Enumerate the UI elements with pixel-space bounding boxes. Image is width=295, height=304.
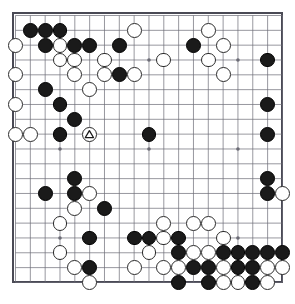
black-stone[interactable] bbox=[186, 38, 201, 53]
black-stone[interactable] bbox=[231, 260, 246, 275]
black-stone[interactable] bbox=[112, 38, 127, 53]
white-stone[interactable] bbox=[8, 127, 23, 142]
white-stone[interactable] bbox=[260, 275, 275, 290]
white-stone[interactable] bbox=[275, 186, 290, 201]
white-stone[interactable] bbox=[127, 260, 142, 275]
black-stone[interactable] bbox=[245, 275, 260, 290]
white-stone[interactable] bbox=[67, 260, 82, 275]
white-stone[interactable] bbox=[82, 275, 97, 290]
black-stone[interactable] bbox=[67, 38, 82, 53]
white-stone[interactable] bbox=[82, 82, 97, 97]
white-stone[interactable] bbox=[216, 38, 231, 53]
black-stone[interactable] bbox=[97, 201, 112, 216]
black-stone[interactable] bbox=[82, 260, 97, 275]
white-stone[interactable] bbox=[23, 127, 38, 142]
white-stone[interactable] bbox=[82, 186, 97, 201]
black-stone[interactable] bbox=[53, 97, 68, 112]
black-stone[interactable] bbox=[82, 38, 97, 53]
black-stone[interactable] bbox=[53, 127, 68, 142]
triangle-marker-icon bbox=[82, 127, 97, 142]
black-stone[interactable] bbox=[245, 245, 260, 260]
black-stone[interactable] bbox=[260, 53, 275, 68]
white-stone[interactable] bbox=[156, 260, 171, 275]
white-stone[interactable] bbox=[156, 231, 171, 246]
white-stone[interactable] bbox=[156, 53, 171, 68]
black-stone[interactable] bbox=[260, 97, 275, 112]
white-stone[interactable] bbox=[275, 260, 290, 275]
black-stone[interactable] bbox=[171, 245, 186, 260]
white-stone[interactable] bbox=[201, 245, 216, 260]
white-stone[interactable] bbox=[8, 38, 23, 53]
white-stone[interactable] bbox=[260, 260, 275, 275]
black-stone[interactable] bbox=[201, 275, 216, 290]
white-stone[interactable] bbox=[201, 23, 216, 38]
white-stone[interactable] bbox=[216, 275, 231, 290]
black-stone[interactable] bbox=[260, 245, 275, 260]
white-stone[interactable] bbox=[171, 260, 186, 275]
black-stone[interactable] bbox=[82, 231, 97, 246]
white-stone[interactable] bbox=[216, 260, 231, 275]
white-stone[interactable] bbox=[53, 38, 68, 53]
black-stone[interactable] bbox=[112, 67, 127, 82]
black-stone[interactable] bbox=[231, 245, 246, 260]
black-stone[interactable] bbox=[67, 112, 82, 127]
black-stone[interactable] bbox=[260, 127, 275, 142]
white-stone[interactable] bbox=[186, 216, 201, 231]
black-stone[interactable] bbox=[275, 245, 290, 260]
black-stone[interactable] bbox=[142, 127, 157, 142]
white-stone[interactable] bbox=[67, 201, 82, 216]
white-stone[interactable] bbox=[127, 23, 142, 38]
black-stone[interactable] bbox=[53, 23, 68, 38]
black-stone[interactable] bbox=[23, 23, 38, 38]
black-stone[interactable] bbox=[127, 231, 142, 246]
white-stone[interactable] bbox=[231, 275, 246, 290]
white-stone[interactable] bbox=[8, 67, 23, 82]
black-stone[interactable] bbox=[171, 275, 186, 290]
white-stone[interactable] bbox=[97, 67, 112, 82]
white-stone[interactable] bbox=[156, 216, 171, 231]
black-stone[interactable] bbox=[171, 231, 186, 246]
white-stone[interactable] bbox=[216, 231, 231, 246]
triangle-shape bbox=[86, 130, 94, 137]
white-stone[interactable] bbox=[67, 67, 82, 82]
black-stone[interactable] bbox=[201, 260, 216, 275]
white-stone[interactable] bbox=[53, 245, 68, 260]
white-stone[interactable] bbox=[8, 97, 23, 112]
black-stone[interactable] bbox=[38, 23, 53, 38]
white-stone[interactable] bbox=[127, 67, 142, 82]
go-board[interactable] bbox=[0, 0, 295, 304]
white-stone[interactable] bbox=[53, 53, 68, 68]
white-stone[interactable] bbox=[67, 53, 82, 68]
stone-layer[interactable] bbox=[0, 0, 295, 304]
black-stone[interactable] bbox=[216, 245, 231, 260]
white-stone[interactable] bbox=[201, 53, 216, 68]
black-stone[interactable] bbox=[38, 186, 53, 201]
white-stone[interactable] bbox=[53, 216, 68, 231]
white-stone[interactable] bbox=[216, 67, 231, 82]
black-stone[interactable] bbox=[67, 171, 82, 186]
black-stone[interactable] bbox=[186, 260, 201, 275]
white-stone[interactable] bbox=[186, 245, 201, 260]
black-stone[interactable] bbox=[38, 82, 53, 97]
white-stone[interactable] bbox=[201, 216, 216, 231]
black-stone[interactable] bbox=[38, 38, 53, 53]
white-stone[interactable] bbox=[142, 245, 157, 260]
black-stone[interactable] bbox=[260, 171, 275, 186]
black-stone[interactable] bbox=[142, 231, 157, 246]
black-stone[interactable] bbox=[67, 186, 82, 201]
black-stone[interactable] bbox=[245, 260, 260, 275]
white-stone[interactable] bbox=[97, 53, 112, 68]
black-stone[interactable] bbox=[260, 186, 275, 201]
